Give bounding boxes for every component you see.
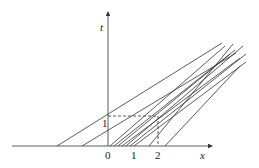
x-tick-2: 2 [155,150,161,161]
diagram-canvas [0,0,259,168]
t-axis-label: t [100,22,103,33]
x-axis-label: x [200,150,205,161]
x-tick-0: 0 [105,150,111,161]
characteristics-diagram: t x 0 1 2 1 [0,0,259,168]
x-tick-1: 1 [131,150,137,161]
t-tick-1: 1 [102,118,108,129]
